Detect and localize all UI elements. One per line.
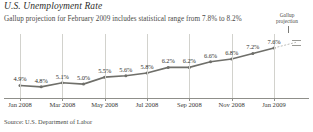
x-axis-label: Nov 2008	[219, 101, 245, 108]
x-axis-label: Mar 2008	[49, 101, 75, 108]
point-label: 5.0%	[77, 74, 90, 81]
point-label: 6.6%	[204, 52, 217, 59]
source-note: Source: U.S. Department of Labor	[4, 118, 92, 125]
gridline	[62, 34, 63, 98]
point-label: 5.5%	[98, 67, 111, 74]
point-label: 7.2%	[246, 43, 259, 50]
point-label: 4.9%	[14, 75, 27, 82]
point-label: 7.6%	[268, 38, 281, 45]
x-axis-label: Jul 2008	[136, 101, 159, 108]
point-label: 6.8%	[225, 49, 238, 56]
gridline	[189, 34, 190, 98]
x-axis-label: Jan 2009	[262, 101, 286, 108]
gridline	[105, 34, 106, 98]
x-axis-label: Jan 2008	[8, 101, 32, 108]
projection-range-bar	[292, 40, 301, 41]
x-axis-line	[4, 98, 309, 99]
point-label: 5.6%	[119, 66, 132, 73]
point-label: 4.8%	[35, 77, 48, 84]
series-line	[4, 34, 309, 98]
projection-annotation-line2: projection	[265, 18, 309, 24]
point-label: 6.2%	[183, 57, 196, 64]
point-label: 6.2%	[162, 57, 175, 64]
plot-area	[4, 34, 309, 98]
chart-subtitle: Gallup projection for February 2009 incl…	[4, 15, 242, 23]
gridline	[232, 34, 233, 98]
point-label: 5.1%	[56, 73, 69, 80]
projection-annotation: Gallup projection	[265, 12, 309, 24]
chart-title: U.S. Unemployment Rate	[4, 1, 102, 11]
chart-container: U.S. Unemployment Rate Gallup projection…	[0, 0, 313, 132]
projection-range-bar	[292, 45, 301, 46]
point-label: 5.8%	[141, 63, 154, 70]
projection-pointer-icon	[288, 26, 289, 33]
x-axis-label: Sep 2008	[177, 101, 202, 108]
gridline	[20, 34, 21, 98]
x-axis-label: May 2008	[91, 101, 118, 108]
